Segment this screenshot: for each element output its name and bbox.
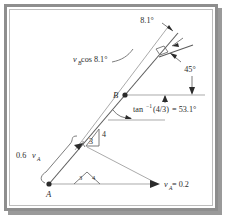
incline-line-parallel: [75, 27, 168, 150]
arrowhead-tick-53-1: [162, 95, 168, 102]
label-angle-45: 45°: [184, 65, 195, 74]
label-vb-cos-8-1: v B cos 8.1°: [73, 55, 107, 66]
arrowhead-45-vertical: [189, 87, 195, 95]
point-marker-b: [122, 92, 127, 97]
connector-to-va-tip: [87, 147, 158, 184]
label-0-6-coef: 0.6: [16, 151, 26, 160]
label-point-a: A: [45, 189, 52, 199]
label-0-6-va: 0.6 v A: [16, 151, 41, 162]
arrowhead-va: [150, 180, 160, 188]
leader-vb-cos: [112, 49, 133, 62]
label-tan-eq: = 53.1°: [172, 105, 196, 114]
arrowhead-8-1-deg: [167, 25, 173, 31]
label-slope-run: 3: [89, 137, 93, 146]
label-mini-triangle-left: 3: [79, 174, 82, 181]
label-tan-prefix: tan: [133, 105, 143, 114]
label-vb-cos-rest: cos 8.1°: [81, 55, 107, 64]
label-point-b: B: [113, 90, 119, 100]
point-marker-a: [46, 181, 51, 186]
arrowhead-53-1: [125, 115, 132, 119]
label-slope-rise: 4: [102, 130, 106, 139]
label-tan-inv-53-1: tan −1 (4/3) = 53.1°: [133, 103, 196, 114]
figure-root: 8.1° 45° v B cos 8.1° tan −1 (4/3) = 53.…: [0, 0, 230, 223]
label-va-eq: = 0.2: [172, 180, 189, 189]
label-tan-arg: (4/3): [153, 105, 169, 114]
label-0-6-sub: A: [36, 156, 41, 162]
brace-0-6-va: [41, 136, 77, 183]
label-vb-cos-base: v: [73, 55, 77, 64]
label-angle-8-1: 8.1°: [140, 16, 154, 25]
label-va-base: v: [164, 180, 168, 189]
label-tan-sup: −1: [146, 103, 152, 109]
vector-diagram: 8.1° 45° v B cos 8.1° tan −1 (4/3) = 53.…: [0, 0, 230, 223]
label-va-value: v A = 0.2: [164, 180, 189, 191]
label-0-6-base: v: [32, 151, 36, 160]
